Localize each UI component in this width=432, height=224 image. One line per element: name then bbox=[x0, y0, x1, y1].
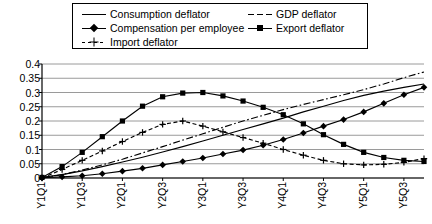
data-point-diamond-icon bbox=[220, 151, 227, 158]
data-point-diamond-icon bbox=[240, 147, 247, 154]
data-point-square-icon bbox=[160, 94, 165, 99]
data-point-diamond-icon bbox=[421, 84, 428, 91]
legend-swatch-solid-none-icon bbox=[81, 8, 107, 20]
data-point-diamond-icon bbox=[360, 109, 367, 116]
data-point-diamond-icon bbox=[200, 155, 207, 162]
data-point-square-icon bbox=[361, 150, 366, 155]
legend-item: GDP deflator bbox=[247, 7, 337, 21]
data-point-square-icon bbox=[140, 104, 145, 109]
x-axis-tick-label: Y3Q1 bbox=[197, 182, 208, 209]
chart-figure: Consumption deflatorGDP deflatorCompensa… bbox=[0, 0, 432, 224]
data-point-diamond-icon bbox=[380, 100, 387, 107]
data-point-square-icon bbox=[100, 134, 105, 139]
data-point-square-icon bbox=[341, 142, 346, 147]
legend-swatch-solid-square-icon bbox=[247, 22, 273, 34]
x-axis-tick-label: Y4Q1 bbox=[277, 182, 288, 209]
legend-item: Consumption deflator bbox=[81, 7, 210, 21]
legend-item: Export deflator bbox=[247, 21, 344, 35]
legend-swatch-dashed-plus-icon bbox=[81, 36, 107, 48]
data-point-square-icon bbox=[261, 105, 266, 110]
data-point-square-icon bbox=[80, 150, 85, 155]
data-point-diamond-icon bbox=[340, 116, 347, 123]
x-axis-tick-label: Y5Q3 bbox=[398, 182, 409, 209]
data-point-square-icon bbox=[381, 155, 386, 160]
legend-label: Compensation per employee bbox=[110, 23, 244, 34]
legend-marker-diamond-icon bbox=[90, 24, 98, 32]
data-point-diamond-icon bbox=[99, 170, 106, 177]
data-point-square-icon bbox=[301, 121, 306, 126]
legend-label: GDP deflator bbox=[276, 9, 337, 20]
x-axis-tick-label: Y2Q3 bbox=[157, 182, 168, 209]
legend-marker-square-icon bbox=[257, 25, 263, 31]
data-point-diamond-icon bbox=[320, 123, 327, 130]
chart-canvas bbox=[0, 56, 432, 182]
data-point-square-icon bbox=[321, 132, 326, 137]
x-axis-tick-label: Y4Q3 bbox=[317, 182, 328, 209]
legend-swatch-solid-diamond-icon bbox=[81, 22, 107, 34]
data-point-diamond-icon bbox=[139, 165, 146, 172]
data-point-square-icon bbox=[281, 112, 286, 117]
series-line bbox=[42, 72, 424, 178]
data-point-diamond-icon bbox=[159, 162, 166, 169]
chart-legend: Consumption deflatorGDP deflatorCompensa… bbox=[72, 3, 368, 49]
x-axis-labels: Y1Q1Y1Q3Y2Q1Y2Q3Y3Q1Y3Q3Y4Q1Y4Q3Y5Q1Y5Q3 bbox=[0, 180, 432, 224]
legend-label: Consumption deflator bbox=[110, 9, 210, 20]
legend-label: Import deflator bbox=[110, 37, 178, 48]
data-point-square-icon bbox=[120, 118, 125, 123]
x-axis-tick-label: Y5Q1 bbox=[358, 182, 369, 209]
data-point-square-icon bbox=[180, 90, 185, 95]
legend-item: Import deflator bbox=[81, 35, 178, 49]
plot-area: 00.050.10.150.20.250.30.350.4 Y1Q1Y1Q3Y2… bbox=[0, 56, 432, 224]
data-point-square-icon bbox=[240, 98, 245, 103]
legend-swatch-dashdot-none-icon bbox=[247, 8, 273, 20]
data-point-diamond-icon bbox=[280, 136, 287, 143]
x-axis-tick-label: Y1Q3 bbox=[76, 182, 87, 209]
x-axis-tick-label: Y3Q3 bbox=[237, 182, 248, 209]
legend-item: Compensation per employee bbox=[81, 21, 244, 35]
data-point-square-icon bbox=[200, 90, 205, 95]
legend-marker-plus-icon bbox=[90, 38, 99, 47]
series-1 bbox=[42, 72, 424, 178]
data-point-square-icon bbox=[220, 93, 225, 98]
x-axis-tick-label: Y2Q1 bbox=[116, 182, 127, 209]
legend-label: Export deflator bbox=[276, 23, 344, 34]
x-axis-tick-label: Y1Q1 bbox=[36, 182, 47, 209]
data-point-diamond-icon bbox=[119, 168, 126, 175]
